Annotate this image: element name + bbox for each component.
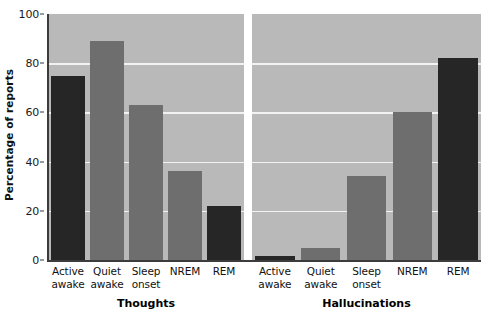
y-axis-tick-label: 20 — [25, 204, 39, 217]
x-axis-tick-label-line1: Active — [259, 265, 291, 277]
bar-slot — [435, 14, 481, 260]
plot-panel-hallucinations — [252, 14, 481, 260]
bar-slot — [298, 14, 344, 260]
x-axis-tick-label-line1: Quiet — [93, 265, 121, 277]
bar-thoughts-nrem — [168, 171, 202, 260]
x-axis-tick-label-line2: awake — [88, 278, 127, 291]
bar-thoughts-active-awake — [51, 76, 85, 261]
bar-hallucinations-sleep-onset — [347, 176, 386, 260]
bar-group-hallucinations — [252, 14, 481, 260]
y-axis-tick-mark — [40, 112, 44, 113]
x-axis-tick-label-line2: onset — [344, 278, 390, 291]
x-axis-tick-label-line1: Sleep — [132, 265, 161, 277]
x-axis-tick-label-line1: NREM — [397, 265, 427, 277]
y-axis-tick-labels: 020406080100 — [18, 14, 44, 260]
plot-panel-thoughts — [49, 14, 244, 260]
x-axis-tick-label: Sleeponset — [344, 263, 390, 295]
y-axis-tick-label: 80 — [25, 57, 39, 70]
x-axis-tick-label-line2: awake — [252, 278, 298, 291]
bar-slot — [389, 14, 435, 260]
bar-thoughts-quiet-awake — [90, 41, 124, 260]
x-axis-tick-label-line1: REM — [213, 265, 236, 277]
x-axis-tick-label: REM — [205, 263, 244, 295]
y-axis-tick-mark — [40, 14, 44, 15]
x-axis-tick-label-line1: REM — [447, 265, 470, 277]
panel-title-hallucinations: Hallucinations — [252, 297, 481, 310]
x-axis-labels-hallucinations: ActiveawakeQuietawakeSleeponsetNREMREM — [252, 263, 481, 295]
bar-group-thoughts — [49, 14, 244, 260]
x-axis-labels-thoughts: ActiveawakeQuietawakeSleeponsetNREMREM — [49, 263, 244, 295]
x-axis-tick-label-line1: Active — [52, 265, 84, 277]
bar-slot — [88, 14, 127, 260]
y-axis-title: Percentage of reports — [0, 0, 18, 270]
x-axis-tick-label: Sleeponset — [127, 263, 166, 295]
x-axis-tick-label-line2: awake — [298, 278, 344, 291]
x-axis-tick-label: NREM — [389, 263, 435, 295]
y-axis-tick-mark — [40, 210, 44, 211]
bar-slot — [49, 14, 88, 260]
bar-thoughts-sleep-onset — [129, 105, 163, 260]
x-axis-tick-label-line1: Quiet — [307, 265, 335, 277]
x-axis-tick-label: Quietawake — [88, 263, 127, 295]
y-axis-tick-label: 60 — [25, 106, 39, 119]
x-axis-tick-label: REM — [435, 263, 481, 295]
bar-slot — [344, 14, 390, 260]
bar-slot — [252, 14, 298, 260]
x-axis-tick-label-line2: awake — [49, 278, 88, 291]
x-axis-line — [47, 260, 481, 262]
panel-title-thoughts: Thoughts — [49, 297, 244, 310]
bar-slot — [166, 14, 205, 260]
y-axis-title-label: Percentage of reports — [3, 69, 15, 201]
y-axis-tick-label: 0 — [32, 254, 39, 267]
y-axis-tick-mark — [40, 63, 44, 64]
bar-hallucinations-quiet-awake — [301, 248, 340, 260]
y-axis-tick-label: 40 — [25, 155, 39, 168]
x-axis-tick-label: Quietawake — [298, 263, 344, 295]
x-axis-tick-label-line1: NREM — [170, 265, 200, 277]
y-axis-tick-mark — [40, 260, 44, 261]
y-axis-tick-label: 100 — [19, 8, 39, 21]
bar-slot — [127, 14, 166, 260]
x-axis-tick-label-line2: onset — [127, 278, 166, 291]
x-axis-tick-label-line1: Sleep — [352, 265, 381, 277]
bar-slot — [205, 14, 244, 260]
x-axis-tick-label: NREM — [166, 263, 205, 295]
bar-hallucinations-rem — [438, 58, 477, 260]
bar-chart-figure: Percentage of reports 020406080100 Activ… — [0, 0, 483, 318]
x-axis-tick-label: Activeawake — [49, 263, 88, 295]
x-axis-tick-label: Activeawake — [252, 263, 298, 295]
bar-hallucinations-nrem — [393, 112, 432, 260]
y-axis-tick-mark — [40, 161, 44, 162]
bar-thoughts-rem — [207, 206, 241, 260]
